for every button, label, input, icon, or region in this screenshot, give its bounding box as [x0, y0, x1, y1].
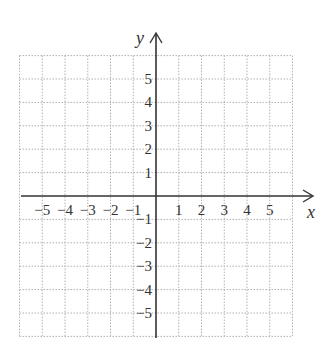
x-tick-label: −4: [57, 202, 73, 218]
x-axis-label: x: [306, 202, 315, 222]
x-tick-label: −2: [103, 202, 119, 218]
y-tick-label: −2: [136, 235, 152, 251]
x-tick-label: 1: [175, 202, 183, 218]
y-tick-label: 3: [145, 118, 153, 134]
y-tick-label: 4: [145, 94, 153, 110]
y-tick-label: 2: [145, 141, 153, 157]
y-tick-label: −3: [136, 258, 152, 274]
x-tick-label: 3: [221, 202, 229, 218]
y-tick-label: −4: [136, 282, 152, 298]
x-tick-label: −3: [80, 202, 96, 218]
x-tick-label: 5: [266, 202, 274, 218]
y-tick-label: 5: [145, 71, 153, 87]
coordinate-plane: x y −5−4−3−2−11234554321−1−2−3−4−5: [0, 0, 334, 350]
x-tick-label: 2: [198, 202, 206, 218]
y-tick-label: −1: [136, 211, 152, 227]
x-tick-label: 4: [243, 202, 251, 218]
y-tick-label: 1: [145, 165, 153, 181]
x-tick-label: −5: [34, 202, 50, 218]
y-tick-label: −5: [136, 305, 152, 321]
y-axis-label: y: [134, 28, 144, 48]
